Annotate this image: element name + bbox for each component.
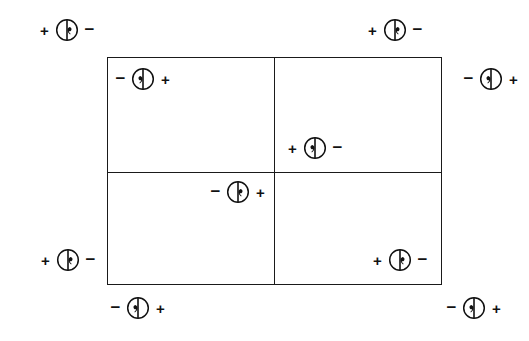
right-sign: − bbox=[83, 21, 96, 38]
right-sign: + bbox=[154, 301, 167, 316]
vertical-divider bbox=[274, 57, 275, 285]
marker-outside-top-left: +− bbox=[38, 17, 96, 43]
marker-inside-bottom-left-quadrant-upper: −+ bbox=[209, 179, 267, 205]
left-sign: + bbox=[39, 253, 52, 268]
marker-outside-left-lower: +− bbox=[39, 247, 97, 273]
left-sign: − bbox=[462, 70, 475, 87]
right-sign: − bbox=[411, 21, 424, 38]
left-sign: + bbox=[371, 253, 384, 268]
left-sign: + bbox=[286, 141, 299, 156]
right-sign: − bbox=[84, 251, 97, 268]
right-sign: + bbox=[507, 72, 520, 87]
polarity-marker-icon bbox=[461, 295, 487, 321]
left-sign: − bbox=[445, 299, 458, 316]
left-sign: − bbox=[209, 183, 222, 200]
polarity-marker-icon bbox=[225, 179, 251, 205]
marker-outside-top-right: +− bbox=[366, 17, 424, 43]
polarity-marker-icon bbox=[54, 17, 80, 43]
polarity-marker-icon bbox=[302, 135, 328, 161]
polarity-marker-icon bbox=[387, 247, 413, 273]
marker-outside-right-upper: −+ bbox=[462, 66, 520, 92]
right-sign: − bbox=[331, 139, 344, 156]
marker-inside-top-left-quadrant: −+ bbox=[114, 66, 172, 92]
figure-canvas: +−+−−+−++−−++−+−−+−+ bbox=[0, 0, 529, 341]
marker-outside-bottom-left: −+ bbox=[109, 295, 167, 321]
polarity-marker-icon bbox=[55, 247, 81, 273]
left-sign: + bbox=[38, 23, 51, 38]
polarity-marker-icon bbox=[382, 17, 408, 43]
marker-inside-bottom-right-quadrant: +− bbox=[371, 247, 429, 273]
horizontal-divider bbox=[107, 172, 442, 173]
polarity-marker-icon bbox=[130, 66, 156, 92]
right-sign: − bbox=[416, 251, 429, 268]
right-sign: + bbox=[490, 301, 503, 316]
left-sign: + bbox=[366, 23, 379, 38]
marker-outside-bottom-right: −+ bbox=[445, 295, 503, 321]
polarity-marker-icon bbox=[125, 295, 151, 321]
left-sign: − bbox=[114, 70, 127, 87]
right-sign: + bbox=[254, 185, 267, 200]
right-sign: + bbox=[159, 72, 172, 87]
left-sign: − bbox=[109, 299, 122, 316]
polarity-marker-icon bbox=[478, 66, 504, 92]
marker-inside-top-right-quadrant: +− bbox=[286, 135, 344, 161]
